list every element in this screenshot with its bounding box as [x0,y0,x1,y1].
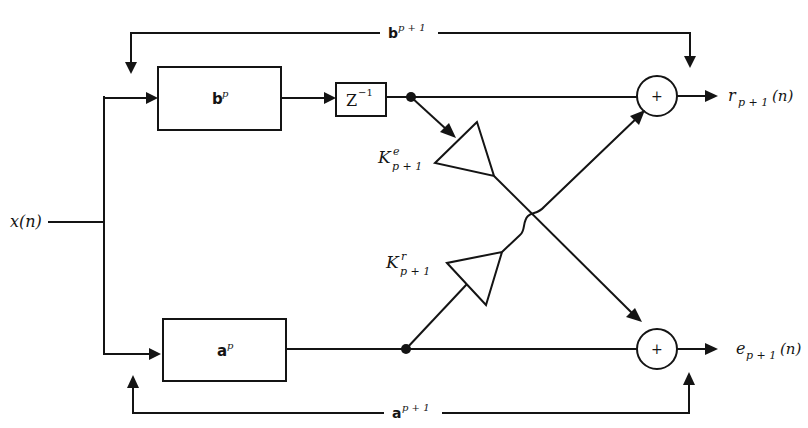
svg-text:+: + [651,88,663,104]
a-next-left-line [133,387,384,413]
b-next-label: b p + 1 [388,22,426,41]
svg-text:p + 1: p + 1 [738,96,768,109]
a-filter-block: a p [163,319,286,381]
svg-text:(n): (n) [772,87,794,105]
arrow-icon [705,90,718,102]
svg-text:p: p [227,340,234,351]
kr-gain-label: K r p + 1 [385,250,430,278]
svg-text:e: e [736,339,745,358]
e-output-label: e p + 1 (n) [736,339,802,362]
svg-text:Z: Z [346,91,357,110]
arrow-icon [125,62,137,74]
arrow-icon [684,56,696,68]
a-next-right-line [442,385,689,413]
b-next-left-line [131,33,380,62]
svg-text:r: r [728,86,737,105]
lattice-filter-diagram: x(n) b p Z −1 + r p + 1 (n) b p + 1 [0,0,808,428]
bottom-adder: + [637,329,677,369]
svg-text:r: r [401,250,407,263]
input-label: x(n) [10,212,42,231]
ke-to-bottom-adder-line [494,176,632,313]
arrow-icon [149,348,161,360]
svg-text:p + 1: p + 1 [400,265,430,278]
ke-gain-label: K e p + 1 [377,145,422,173]
delay-block: Z −1 [336,83,386,116]
svg-text:e: e [393,145,400,158]
to-ke-line [411,97,446,129]
svg-text:p + 1: p + 1 [392,160,422,173]
b-filter-block: b p [158,67,281,130]
arrow-icon [127,375,139,388]
a-next-label: a p + 1 [392,402,430,421]
svg-text:p + 1: p + 1 [746,349,776,362]
svg-text:p + 1: p + 1 [402,402,430,413]
svg-text:b: b [388,25,398,41]
svg-text:p + 1: p + 1 [398,22,426,33]
svg-text:a: a [392,405,401,421]
svg-text:K: K [377,147,392,167]
r-output-label: r p + 1 (n) [728,86,794,109]
arrow-icon [705,343,718,355]
svg-text:K: K [385,252,400,272]
kr-to-top-adder-line [502,115,640,252]
svg-text:−1: −1 [358,87,373,98]
svg-text:(n): (n) [780,340,802,358]
svg-text:+: + [651,341,663,357]
arrow-icon [683,372,695,385]
to-kr-line [406,284,467,349]
svg-text:a: a [217,342,227,360]
svg-text:p: p [222,88,229,99]
arrow-icon [324,92,336,104]
b-next-right-line [438,33,690,58]
svg-text:x(n): x(n) [10,212,42,231]
arrow-icon [146,92,158,104]
top-adder: + [637,76,677,116]
